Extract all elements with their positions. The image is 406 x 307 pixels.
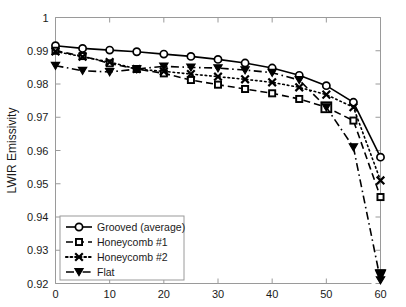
data-point-circle <box>187 53 194 60</box>
data-point-circle <box>75 223 82 230</box>
data-point-square-inner <box>378 195 382 199</box>
chart-container: 0.920.930.940.950.960.970.980.9910102030… <box>0 0 406 307</box>
y-tick-label: 0.95 <box>27 178 48 190</box>
data-point-circle <box>377 154 384 161</box>
data-point-square-inner <box>243 87 247 91</box>
data-point-circle <box>323 82 330 89</box>
legend-label: Flat <box>97 266 115 278</box>
data-point-square-inner <box>189 78 193 82</box>
data-point-square-inner <box>351 118 355 122</box>
y-tick-label: 0.94 <box>27 211 48 223</box>
data-point-circle <box>133 48 140 55</box>
lwir-emissivity-line-chart: 0.920.930.940.950.960.970.980.9910102030… <box>0 0 406 307</box>
data-point-square-inner <box>77 240 81 244</box>
data-point-square-inner <box>216 83 220 87</box>
legend-label: Honeycomb #1 <box>97 236 168 248</box>
y-tick-label: 0.96 <box>27 145 48 157</box>
y-tick-label: 1 <box>42 12 48 24</box>
flat-endpoint-arrow <box>375 269 386 282</box>
x-tick-label: 50 <box>320 288 332 300</box>
x-tick-label: 40 <box>266 288 278 300</box>
x-tick-label: 20 <box>158 288 170 300</box>
y-tick-label: 0.92 <box>27 278 48 290</box>
legend-label: Honeycomb #2 <box>97 251 168 263</box>
x-tick-label: 60 <box>374 288 386 300</box>
y-axis-title: LWIR Emissivity <box>5 108 19 194</box>
data-point-circle <box>241 59 248 66</box>
x-tick-label: 10 <box>104 288 116 300</box>
data-point-circle <box>106 46 113 53</box>
data-point-square-inner <box>297 97 301 101</box>
data-point-triangle <box>349 144 357 151</box>
legend-label: Grooved (average) <box>97 221 185 233</box>
x-tick-label: 0 <box>52 288 58 300</box>
data-point-circle <box>214 56 221 63</box>
y-tick-label: 0.98 <box>27 78 48 90</box>
x-tick-label: 30 <box>212 288 224 300</box>
data-point-square-inner <box>270 91 274 95</box>
y-tick-label: 0.97 <box>27 111 48 123</box>
data-point-circle <box>160 50 167 57</box>
chart-legend: Grooved (average)Honeycomb #1Honeycomb #… <box>60 216 185 280</box>
y-tick-label: 0.99 <box>27 45 48 57</box>
data-point-circle <box>79 45 86 52</box>
y-tick-label: 0.93 <box>27 244 48 256</box>
data-point-triangle <box>78 67 86 74</box>
